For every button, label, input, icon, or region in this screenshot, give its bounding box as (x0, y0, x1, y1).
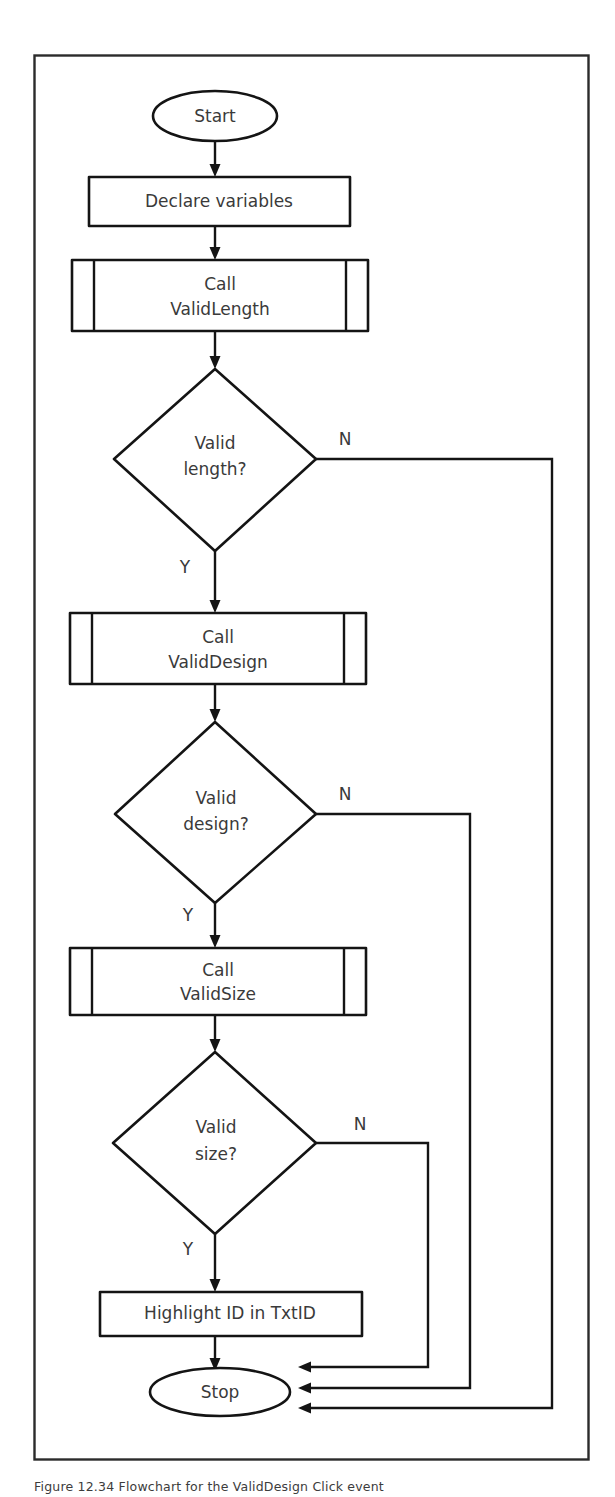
stop-label: Stop (201, 1382, 240, 1402)
decision3-label-line1: Valid (196, 1117, 237, 1137)
decision1-label-line2: length? (183, 459, 246, 479)
call-validsize-rect (70, 948, 366, 1015)
figure-root: Start Declare variables Call ValidLength (0, 0, 615, 1497)
node-call-validdesign: Call ValidDesign (70, 613, 366, 684)
decision1-yes-label: Y (179, 557, 191, 577)
decision1-no-label: N (339, 429, 352, 449)
call-validlength-label-line2: ValidLength (170, 299, 270, 319)
node-highlight-id: Highlight ID in TxtID (100, 1292, 362, 1336)
node-call-validlength: Call ValidLength (72, 260, 368, 331)
start-label: Start (194, 106, 236, 126)
figure-caption: Figure 12.34 Flowchart for the ValidDesi… (34, 1478, 594, 1495)
call-validlength-label-line1: Call (204, 274, 236, 294)
node-start: Start (153, 91, 277, 141)
decision1-label-line1: Valid (195, 433, 236, 453)
node-declare-variables: Declare variables (89, 177, 350, 226)
node-stop: Stop (150, 1368, 290, 1416)
call-validlength-rect (72, 260, 368, 331)
decision3-label-line2: size? (195, 1144, 237, 1164)
decision2-no-label: N (339, 784, 352, 804)
call-validdesign-label-line2: ValidDesign (168, 652, 268, 672)
decision2-label-line2: design? (183, 814, 248, 834)
call-validdesign-rect (70, 613, 366, 684)
decision3-yes-label: Y (182, 1239, 194, 1259)
decision3-no-label: N (354, 1114, 367, 1134)
call-validdesign-label-line1: Call (202, 627, 234, 647)
highlight-label: Highlight ID in TxtID (144, 1303, 316, 1323)
flowchart-canvas: Start Declare variables Call ValidLength (0, 0, 615, 1497)
node-call-validsize: Call ValidSize (70, 948, 366, 1015)
decision2-label-line1: Valid (196, 788, 237, 808)
declare-label: Declare variables (145, 191, 293, 211)
call-validsize-label-line1: Call (202, 960, 234, 980)
decision2-yes-label: Y (182, 905, 194, 925)
call-validsize-label-line2: ValidSize (180, 984, 256, 1004)
